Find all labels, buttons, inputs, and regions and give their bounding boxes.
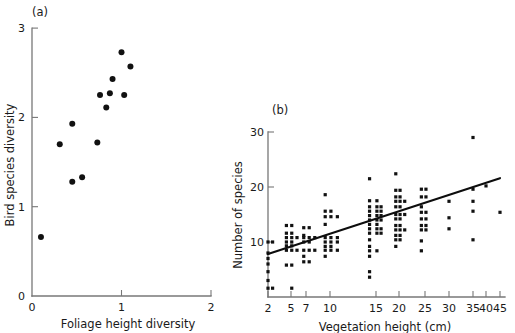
data-point — [302, 226, 305, 229]
panel-a: (a) 0123012 Foliage height diversity Bir… — [3, 5, 215, 331]
data-point — [94, 139, 100, 145]
data-point — [403, 228, 406, 231]
data-point — [266, 240, 269, 243]
panel-a-ticks — [32, 28, 211, 296]
panel-b-x-tick-label: 40 — [479, 302, 493, 315]
panel-b-label: (b) — [272, 103, 288, 117]
data-point — [329, 215, 332, 218]
data-point — [336, 240, 339, 243]
data-point — [97, 92, 103, 98]
data-point — [375, 210, 378, 213]
panel-b-y-axis-title: Number of species — [231, 161, 245, 269]
data-point — [375, 232, 378, 235]
data-point — [375, 227, 378, 230]
panel-b-x-tick-label: 45 — [493, 302, 507, 315]
panel-a-y-tick-label: 1 — [18, 201, 25, 214]
data-point — [290, 264, 293, 267]
data-point — [285, 264, 288, 267]
data-point — [368, 227, 371, 230]
data-point — [379, 210, 382, 213]
data-point — [398, 213, 401, 216]
data-point — [394, 189, 397, 192]
data-point — [336, 236, 339, 239]
data-point — [107, 90, 113, 96]
panel-a-label: (a) — [32, 5, 48, 19]
panel-a-data-points — [38, 49, 134, 240]
data-point — [295, 249, 298, 252]
data-point — [266, 262, 269, 265]
data-point — [308, 249, 311, 252]
data-point — [266, 257, 269, 260]
data-point — [420, 224, 423, 227]
panel-b-x-tick-label: 35 — [466, 302, 480, 315]
panel-b-x-tick-label: 7 — [303, 302, 310, 315]
data-point — [266, 279, 269, 282]
data-point — [394, 224, 397, 227]
panel-b-x-tick-label: 30 — [442, 302, 456, 315]
data-point — [394, 200, 397, 203]
data-point — [302, 255, 305, 258]
panel-a-y-tick-label: 0 — [18, 290, 25, 303]
data-point — [285, 232, 288, 235]
data-point — [329, 240, 332, 243]
data-point — [398, 205, 401, 208]
data-point — [285, 240, 288, 243]
panel-b-x-tick-label: 10 — [323, 302, 337, 315]
data-point — [285, 236, 288, 239]
data-point — [313, 249, 316, 252]
data-point — [38, 234, 44, 240]
data-point — [398, 224, 401, 227]
data-point — [398, 200, 401, 203]
data-point — [271, 240, 274, 243]
data-point — [394, 245, 397, 248]
data-point — [79, 174, 85, 180]
data-point — [394, 217, 397, 220]
panel-a-y-tick-label: 2 — [18, 111, 25, 124]
data-point — [420, 195, 423, 198]
panel-b-x-tick-label: 20 — [392, 302, 406, 315]
data-point — [324, 255, 327, 258]
panel-b-x-tick-label: 2 — [265, 302, 272, 315]
regression-line — [268, 178, 500, 254]
panel-a-x-tick-label: 2 — [208, 301, 215, 314]
data-point — [420, 249, 423, 252]
data-point — [368, 199, 371, 202]
data-point — [368, 245, 371, 248]
panel-b-x-tick-label: 25 — [418, 302, 432, 315]
panel-a-y-axis-title: Bird species diversity — [3, 103, 17, 226]
data-point — [324, 193, 327, 196]
panel-b-ticks — [268, 132, 500, 297]
data-point — [329, 210, 332, 213]
data-point — [103, 105, 109, 111]
data-point — [290, 287, 293, 290]
data-point — [302, 236, 305, 239]
data-point — [394, 205, 397, 208]
data-point — [368, 223, 371, 226]
two-panel-scatter-figure: (a) 0123012 Foliage height diversity Bir… — [0, 0, 515, 333]
data-point — [368, 270, 371, 273]
data-point — [266, 287, 269, 290]
data-point — [290, 232, 293, 235]
data-point — [375, 214, 378, 217]
data-point — [379, 232, 382, 235]
data-point — [69, 121, 75, 127]
panel-b-x-axis-title: Vegetation height (cm) — [319, 320, 451, 333]
data-point — [424, 224, 427, 227]
data-point — [302, 249, 305, 252]
data-point — [447, 200, 450, 203]
data-point — [336, 215, 339, 218]
data-point — [394, 238, 397, 241]
data-point — [375, 199, 378, 202]
data-point — [398, 195, 401, 198]
data-point — [57, 141, 63, 147]
data-point — [398, 228, 401, 231]
data-point — [329, 249, 332, 252]
data-point — [424, 188, 427, 191]
data-point — [290, 236, 293, 239]
data-point — [121, 92, 127, 98]
data-point — [398, 234, 401, 237]
panel-a-x-axis-title: Foliage height diversity — [61, 317, 196, 331]
data-point — [420, 239, 423, 242]
data-point — [368, 255, 371, 258]
data-point — [394, 228, 397, 231]
